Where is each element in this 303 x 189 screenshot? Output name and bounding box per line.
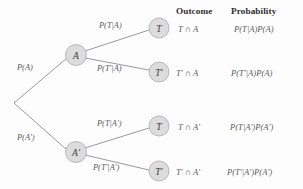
branch-label-root-lower: P(A') — [17, 133, 35, 142]
outcome-cell-row-1: T ∩ A — [178, 24, 198, 34]
branch-label-a-complement-lower: P(T'|A') — [93, 163, 119, 172]
probability-cell-row-3: P(T|A')P(A') — [230, 122, 273, 132]
outcome-cell-row-4: T' ∩ A' — [176, 167, 200, 177]
probability-cell-row-4: P(T'|A')P(A') — [227, 167, 272, 177]
node-a-label: A — [72, 51, 79, 61]
outcome-cell-row-2: T' ∩ A — [176, 68, 198, 78]
probability-cell-row-1: P(T|A)P(A) — [234, 24, 274, 34]
outcome-cell-row-3: T ∩ A' — [178, 122, 200, 132]
branch-label-root-upper: P(A) — [17, 63, 33, 72]
probability-cell-row-2: P(T'|A)P(A) — [231, 68, 272, 78]
column-header-outcome: Outcome — [176, 6, 212, 16]
probability-tree-diagram: A A' T T' T T' Outcome Probability P(A) … — [0, 0, 303, 189]
branch-label-a-lower: P(T'|A) — [97, 64, 122, 73]
edge-root-to-a-complement — [14, 103, 67, 150]
node-leaf-t-given-a-complement-label: T — [156, 122, 162, 132]
edge-a-complement-to-t — [85, 128, 149, 148]
node-leaf-t-prime-given-a-label: T' — [155, 68, 163, 78]
node-a-complement-label: A' — [71, 148, 81, 158]
branch-label-a-complement-upper: P(T|A') — [97, 119, 122, 128]
column-header-probability: Probability — [231, 6, 276, 16]
node-leaf-t-given-a-label: T — [156, 24, 162, 34]
node-leaf-t-prime-given-a-complement-label: T' — [155, 167, 163, 177]
branch-label-a-upper: P(T|A) — [99, 21, 122, 30]
edge-a-to-t — [85, 30, 149, 51]
